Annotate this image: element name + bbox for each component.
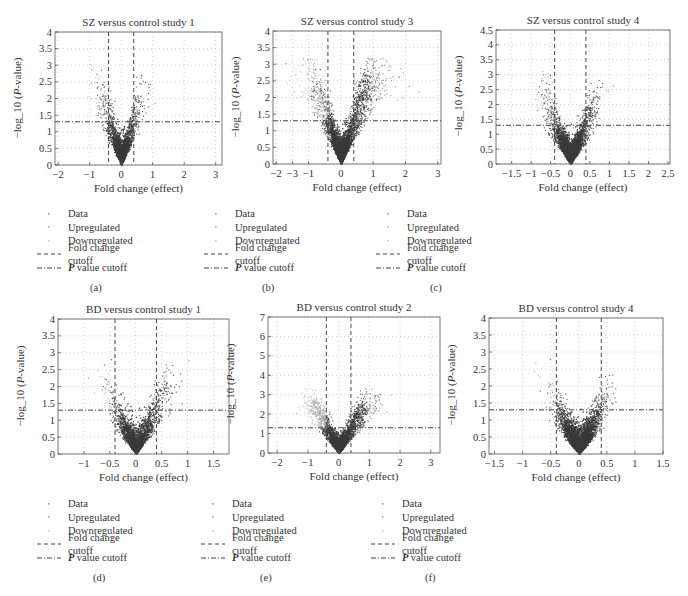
point-marker-icon — [370, 527, 396, 535]
plot-area: −1.5−1−0.500.511.500.511.522.533.54 — [0, 0, 688, 596]
svg-text:−1.5: −1.5 — [485, 458, 504, 469]
svg-text:2.5: 2.5 — [473, 364, 486, 375]
chart-title: BD versus control study 4 — [489, 302, 663, 314]
svg-text:0.5: 0.5 — [473, 432, 486, 443]
legend-label: Data — [402, 497, 422, 511]
dash-dot-line-icon — [370, 554, 396, 562]
legend: DataUpregulatedDownregulatedFold change … — [370, 497, 467, 565]
svg-text:3: 3 — [481, 347, 486, 358]
svg-text:1.5: 1.5 — [473, 398, 486, 409]
svg-text:1.5: 1.5 — [656, 458, 669, 469]
point-marker-icon — [370, 513, 396, 521]
x-axis-label: Fold change (effect) — [489, 471, 663, 483]
svg-text:0: 0 — [576, 458, 581, 469]
legend-label: Upregulated — [402, 511, 454, 525]
svg-text:−1: −1 — [517, 458, 528, 469]
svg-text:3.5: 3.5 — [473, 330, 486, 341]
svg-text:0.5: 0.5 — [600, 458, 613, 469]
svg-text:1: 1 — [632, 458, 637, 469]
legend-item: P value cutoff — [370, 551, 467, 565]
svg-text:2: 2 — [481, 381, 486, 392]
panel-label: (f) — [425, 572, 436, 583]
svg-text:4: 4 — [481, 313, 487, 324]
svg-text:1: 1 — [481, 415, 486, 426]
legend-item: Data — [370, 497, 467, 511]
svg-text:0: 0 — [481, 449, 486, 460]
svg-text:−0.5: −0.5 — [541, 458, 560, 469]
legend-item: Fold change cutoff — [370, 538, 467, 552]
legend-label: P value cutoff — [402, 551, 461, 565]
y-axis-label: −log_10 (P-value) — [445, 330, 457, 440]
legend-item: Upregulated — [370, 511, 467, 525]
dashed-line-icon — [370, 540, 396, 548]
point-marker-icon — [370, 500, 396, 508]
